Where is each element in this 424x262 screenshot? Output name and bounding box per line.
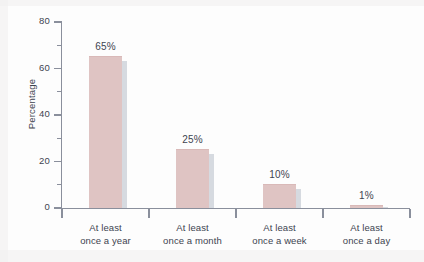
y-tick-label: 40 <box>14 108 50 119</box>
x-category-label-line: At least <box>323 221 410 234</box>
x-separator-tick <box>61 209 62 218</box>
bar-group[interactable] <box>263 184 301 208</box>
bar-group[interactable] <box>350 205 388 208</box>
y-tick-label: 60 <box>14 62 50 73</box>
x-separator-tick <box>409 209 410 218</box>
y-tick-label: 0 <box>14 201 50 212</box>
bar-value-label: 1% <box>338 190 395 201</box>
y-tick-label: 20 <box>14 155 50 166</box>
bar-value-label: 65% <box>77 41 134 52</box>
scan-artifact <box>0 250 424 262</box>
x-category-label-line: once a week <box>236 234 323 247</box>
x-separator-tick <box>322 209 323 218</box>
plot-area: 65%25%10%1% <box>62 22 410 208</box>
bar-group[interactable] <box>176 149 214 208</box>
bar-chart: Percentage 020406080 65%25%10%1% At leas… <box>0 0 424 262</box>
x-category-label: At leastonce a year <box>62 221 149 247</box>
bar[interactable] <box>263 184 296 208</box>
y-tick-major <box>54 21 62 22</box>
bar[interactable] <box>350 205 383 208</box>
y-tick-major <box>54 161 62 162</box>
y-tick-label: 80 <box>14 15 50 26</box>
bar[interactable] <box>89 56 122 208</box>
y-tick-major <box>54 114 62 115</box>
x-category-label-line: At least <box>149 221 236 234</box>
bar[interactable] <box>176 149 209 208</box>
scan-artifact <box>0 0 424 6</box>
x-category-label-line: once a year <box>62 234 149 247</box>
x-category-label: At leastonce a day <box>323 221 410 247</box>
x-category-label: At leastonce a month <box>149 221 236 247</box>
x-separator-tick <box>235 209 236 218</box>
x-category-label-line: At least <box>236 221 323 234</box>
bar-value-label: 10% <box>251 169 308 180</box>
bar-group[interactable] <box>89 56 127 208</box>
bar-value-label: 25% <box>164 134 221 145</box>
y-tick-major <box>54 68 62 69</box>
scan-artifact <box>0 0 8 262</box>
x-separator-tick <box>148 209 149 218</box>
x-category-label-line: At least <box>62 221 149 234</box>
x-category-label: At leastonce a week <box>236 221 323 247</box>
x-category-label-line: once a day <box>323 234 410 247</box>
x-category-label-line: once a month <box>149 234 236 247</box>
